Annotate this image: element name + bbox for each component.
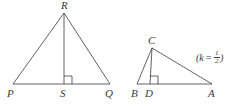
segment-QR [64,13,110,84]
annotation-fraction: 1 2 [214,50,220,65]
vertex-label-P: P [7,88,14,99]
vertex-label-A: A [208,88,215,99]
segment-PR [13,13,64,84]
fraction-denominator: 2 [214,57,220,65]
vertex-label-S: S [60,88,66,99]
segment-CD-altitude [150,48,152,84]
annotation-close-paren: ) [220,53,223,63]
right-angle-mark-D [150,76,158,84]
right-angle-mark-S [64,76,72,84]
fraction-numerator: 1 [214,50,220,57]
scale-factor-annotation: ( k = 1 2 ) [196,50,223,65]
vertex-label-Q: Q [105,88,113,99]
annotation-equals-sign: = [204,53,214,63]
vertex-label-D: D [145,88,153,99]
vertex-label-C: C [148,35,155,46]
segment-BC [137,48,152,84]
triangle-PQR [13,13,110,84]
geometry-figure: R P S Q C B D A ( k = 1 2 ) [0,0,234,108]
vertex-label-B: B [131,88,138,99]
vertex-label-R: R [61,0,68,11]
